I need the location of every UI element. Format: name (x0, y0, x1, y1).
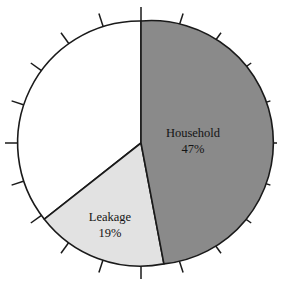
pie-slice-household[interactable] (141, 21, 273, 264)
tick-mark (31, 215, 42, 223)
tick-mark (99, 259, 103, 272)
leakage-value-text: 19% (99, 226, 122, 240)
pie-slices-group (18, 21, 274, 267)
tick-mark (61, 33, 69, 44)
bottom-caption-sliver (0, 292, 282, 297)
household-value-text: 47% (182, 142, 205, 156)
tick-mark (31, 63, 42, 71)
tick-mark (61, 242, 69, 253)
tick-mark (99, 14, 103, 27)
household-label-text: Household (166, 126, 221, 140)
pie-chart-svg: Household 47% Leakage 19% (0, 0, 282, 297)
pie-chart-figure: Household 47% Leakage 19% (0, 0, 282, 297)
leakage-label-text: Leakage (89, 210, 132, 224)
